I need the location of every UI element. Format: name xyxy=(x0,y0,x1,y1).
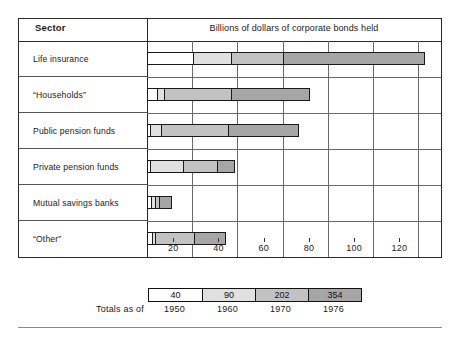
plot-area xyxy=(147,41,441,257)
bar-segment xyxy=(148,53,193,64)
axis-tick xyxy=(173,238,174,242)
bar-segment xyxy=(161,125,228,136)
sector-name: “Other” xyxy=(33,234,61,244)
bar-row xyxy=(147,77,441,113)
sector-label-row: “Other” xyxy=(19,221,147,257)
stacked-bar xyxy=(147,196,172,209)
bar-row xyxy=(147,41,441,77)
axis-tick xyxy=(399,238,400,242)
sector-name: Public pension funds xyxy=(33,126,115,136)
stacked-bar xyxy=(147,52,425,65)
chart-frame: Sector Billions of dollars of corporate … xyxy=(18,18,442,258)
bar-segment xyxy=(283,53,424,64)
bar-segment xyxy=(157,89,164,100)
bar-segment xyxy=(164,89,231,100)
stacked-bar xyxy=(147,124,299,137)
legend-year-label: 1976 xyxy=(307,304,360,316)
sector-label-column: Life insurance“Households”Public pension… xyxy=(19,41,147,257)
sector-label-row: “Households” xyxy=(19,77,147,113)
bar-segment xyxy=(228,125,297,136)
bar-segment xyxy=(183,161,216,172)
axis-tick xyxy=(309,238,310,242)
legend-year-label: 1970 xyxy=(254,304,307,316)
sector-label-row: Life insurance xyxy=(19,41,147,77)
sector-name: “Households” xyxy=(33,90,86,100)
bar-segment xyxy=(193,53,231,64)
legend-total-swatch: 202 xyxy=(255,289,308,301)
axis-tick-label: 60 xyxy=(258,243,268,253)
bar-segment xyxy=(150,161,183,172)
bar-segment xyxy=(150,125,161,136)
sector-name: Private pension funds xyxy=(33,162,119,172)
bar-row xyxy=(147,113,441,149)
bottom-rule xyxy=(18,327,442,328)
bar-segment xyxy=(231,53,283,64)
column-header-sector: Sector xyxy=(35,22,66,33)
legend-total-swatch: 90 xyxy=(202,289,255,301)
legend-totals-label: Totals as of xyxy=(60,304,144,314)
axis-tick-label: 80 xyxy=(304,243,314,253)
bar-segment xyxy=(217,161,235,172)
sector-name: Life insurance xyxy=(33,54,89,64)
bar-segment xyxy=(159,197,170,208)
legend-year-label: 1950 xyxy=(148,304,201,316)
stacked-bar xyxy=(147,88,310,101)
legend-total-swatch: 40 xyxy=(149,289,202,301)
axis-tick-label: 20 xyxy=(168,243,178,253)
bar-segment xyxy=(231,89,309,100)
axis-tick-label: 120 xyxy=(392,243,408,253)
axis-tick xyxy=(264,238,265,242)
axis-tick xyxy=(218,238,219,242)
sector-label-row: Mutual savings banks xyxy=(19,185,147,221)
sector-label-row: Public pension funds xyxy=(19,113,147,149)
bar-row xyxy=(147,149,441,185)
sector-name: Mutual savings banks xyxy=(33,198,119,208)
axis-tick-label: 40 xyxy=(213,243,223,253)
column-header-value: Billions of dollars of corporate bonds h… xyxy=(147,23,441,33)
legend-total-swatch: 354 xyxy=(308,289,361,301)
stacked-bar xyxy=(147,160,235,173)
bar-row xyxy=(147,185,441,221)
legend-swatch-bar: 4090202354 xyxy=(148,288,362,302)
legend-year-label: 1960 xyxy=(201,304,254,316)
sector-label-row: Private pension funds xyxy=(19,149,147,185)
legend-year-row: 1950196019701976 xyxy=(148,304,360,316)
bar-segment xyxy=(148,89,157,100)
chart-page: Sector Billions of dollars of corporate … xyxy=(0,0,464,340)
axis-tick-label: 100 xyxy=(346,243,362,253)
axis-tick xyxy=(354,238,355,242)
